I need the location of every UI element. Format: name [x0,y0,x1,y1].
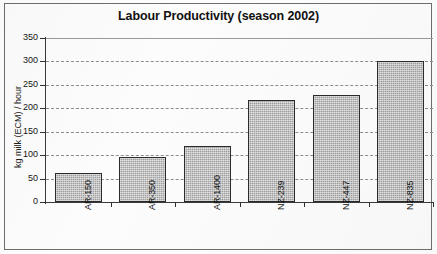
x-tick-label: AR-150 [83,180,93,210]
x-tick-label: AR-350 [147,180,157,210]
plot-area [46,38,433,202]
y-tick-label: 100 [4,150,38,159]
gridline [46,61,433,62]
gridline [46,179,433,180]
gridline [46,132,433,133]
y-tick-mark [40,108,46,109]
y-tick-label: 150 [4,127,38,136]
gridline [46,85,433,86]
x-tick-mark [433,202,434,207]
y-tick-mark [40,179,46,180]
bar [377,61,424,202]
plot-top-border [46,38,433,39]
y-tick-mark [40,61,46,62]
y-tick-mark [40,155,46,156]
y-tick-label: 200 [4,103,38,112]
x-tick-mark [369,202,370,207]
y-tick-label: 50 [4,174,38,183]
bar [119,157,166,202]
bar [248,100,295,202]
bar [55,173,102,202]
x-tick-label: NZ-447 [341,181,351,210]
y-tick-label: 0 [4,197,38,206]
gridline [46,108,433,109]
x-tick-label: AR-1400 [212,175,222,210]
bar [184,146,231,202]
y-tick-label: 350 [4,33,38,42]
gridline [46,155,433,156]
x-tick-mark [175,202,176,207]
y-tick-label: 250 [4,80,38,89]
x-tick-mark [304,202,305,207]
y-tick-mark [40,85,46,86]
x-tick-label: NZ-835 [405,181,415,210]
x-tick-label: NZ-239 [276,181,286,210]
bar [313,95,360,202]
y-tick-mark [40,202,46,203]
y-tick-label: 300 [4,56,38,65]
chart-title: Labour Productivity (season 2002) [0,9,437,23]
x-tick-mark [240,202,241,207]
x-tick-mark [111,202,112,207]
y-tick-mark [40,132,46,133]
y-tick-mark [40,38,46,39]
chart-screenshot: Labour Productivity (season 2002) kg mil… [0,0,437,254]
